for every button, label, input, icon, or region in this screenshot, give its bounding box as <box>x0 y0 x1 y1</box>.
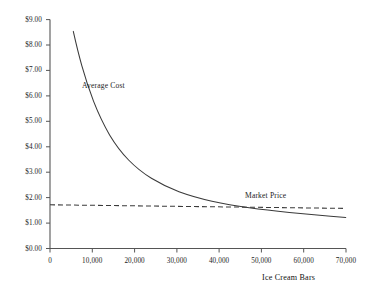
plot-area <box>0 0 370 295</box>
annotation-average-cost: Average Cost <box>82 82 125 90</box>
y-tick-marks <box>46 20 50 249</box>
y-tick-label: $3.00 <box>10 169 42 176</box>
x-tick-label: 10,000 <box>74 258 110 265</box>
y-tick-label: $7.00 <box>10 67 42 74</box>
x-tick-label: 50,000 <box>243 258 279 265</box>
y-tick-label: $4.00 <box>10 144 42 151</box>
x-tick-label: 40,000 <box>201 258 237 265</box>
x-tick-marks <box>50 249 346 253</box>
chart-container: $9.00 $8.00 $7.00 $6.00 $5.00 $4.00 $3.0… <box>0 0 370 295</box>
y-tick-label: $5.00 <box>10 118 42 125</box>
x-tick-label: 0 <box>34 258 66 265</box>
x-axis-title: Ice Cream Bars <box>262 274 315 282</box>
series-average-cost <box>73 31 346 217</box>
y-tick-label: $2.00 <box>10 195 42 202</box>
y-tick-label: $1.00 <box>10 220 42 227</box>
y-tick-label: $0.00 <box>10 246 42 253</box>
x-tick-label: 70,000 <box>328 258 364 265</box>
y-tick-label: $6.00 <box>10 93 42 100</box>
x-tick-label: 30,000 <box>159 258 195 265</box>
y-tick-label: $8.00 <box>10 42 42 49</box>
y-tick-label: $9.00 <box>10 17 42 24</box>
annotation-market-price: Market Price <box>245 192 286 200</box>
x-tick-label: 60,000 <box>286 258 322 265</box>
series-market-price <box>50 205 346 209</box>
x-tick-label: 20,000 <box>117 258 153 265</box>
